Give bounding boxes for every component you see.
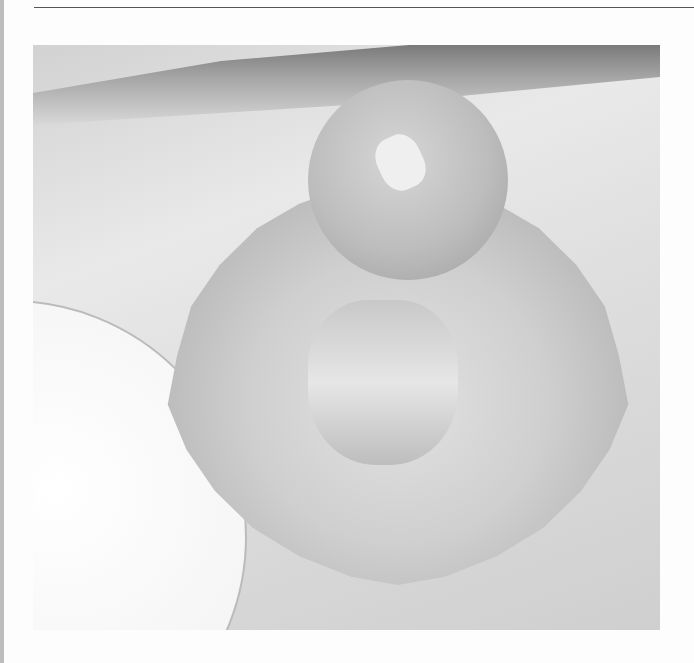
- dish-stem: [308, 300, 458, 465]
- page-edge-border: [0, 0, 4, 663]
- horizontal-rule: [34, 7, 694, 8]
- photo: [33, 45, 660, 630]
